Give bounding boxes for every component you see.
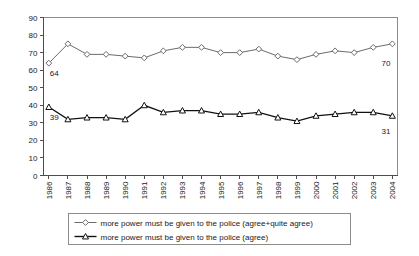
chart-axes — [44, 18, 398, 176]
data-point-marker — [160, 48, 166, 54]
legend-item[interactable]: more power must be given to the police (… — [75, 233, 269, 242]
data-point-marker — [46, 104, 52, 109]
plot-area-border — [44, 18, 398, 176]
data-point-marker — [180, 44, 186, 50]
y-axis-tick-label: 0 — [33, 172, 38, 181]
x-axis-tick-label: 1989 — [102, 181, 111, 199]
y-axis-tick-label: 40 — [29, 101, 38, 110]
x-axis-tick-label: 1990 — [121, 181, 130, 199]
x-axis-tick-label: 2004 — [388, 181, 397, 199]
x-axis-group: 1986198719881989199019911992199319941995… — [45, 176, 398, 200]
x-axis-tick-label: 1996 — [236, 181, 245, 199]
x-axis-tick-label: 2002 — [350, 181, 359, 199]
x-axis-tick-label: 2003 — [369, 181, 378, 199]
y-axis-tick-label: 80 — [29, 31, 38, 40]
line-chart-svg: 0102030405060708090 19861987198819891990… — [0, 0, 419, 256]
data-point-marker — [256, 46, 262, 52]
data-point-value-label: 64 — [50, 69, 59, 78]
data-point-marker — [84, 51, 90, 57]
y-axis-tick-label: 90 — [29, 14, 38, 23]
data-point-marker — [141, 55, 147, 61]
x-axis-tick-label: 1993 — [178, 181, 187, 199]
y-axis-tick-label: 20 — [29, 136, 38, 145]
data-point-marker — [141, 102, 147, 107]
data-point-value-label: 70 — [381, 59, 390, 68]
data-point-marker — [237, 50, 243, 56]
legend-item-label: more power must be given to the police (… — [101, 219, 314, 228]
y-axis-tick-label: 30 — [29, 119, 38, 128]
x-axis-tick-label: 1986 — [45, 181, 54, 199]
chart-container: 0102030405060708090 19861987198819891990… — [0, 0, 419, 256]
x-axis-tick-label: 2001 — [331, 181, 340, 199]
y-axis-tick-label: 60 — [29, 66, 38, 75]
x-axis-tick-label: 1995 — [217, 181, 226, 199]
x-axis-tick-label: 1998 — [274, 181, 283, 199]
data-point-value-label: 31 — [381, 127, 390, 136]
y-axis-tick-label: 70 — [29, 49, 38, 58]
x-axis-tick-label: 1994 — [198, 181, 207, 199]
data-series-group — [46, 41, 396, 124]
data-point-marker — [332, 48, 338, 54]
x-axis-tick-label: 1999 — [293, 181, 302, 199]
data-point-marker — [389, 41, 395, 47]
x-axis-tick-label: 1987 — [64, 181, 73, 199]
x-axis-tick-label: 2000 — [312, 181, 321, 199]
x-axis-tick-label: 1991 — [140, 181, 149, 199]
y-axis-tick-label: 50 — [29, 84, 38, 93]
data-point-marker — [313, 51, 319, 57]
y-axis-group: 0102030405060708090 — [29, 14, 44, 181]
data-point-marker — [103, 51, 109, 57]
data-point-value-label: 39 — [50, 113, 59, 122]
x-axis-tick-label: 1992 — [159, 181, 168, 199]
data-annotations-group: 64397031 — [50, 59, 391, 136]
data-point-marker — [351, 50, 357, 56]
legend-item[interactable]: more power must be given to the police (… — [75, 219, 314, 228]
data-point-marker — [370, 44, 376, 50]
series-agree — [46, 102, 396, 123]
data-point-marker — [294, 57, 300, 63]
data-point-marker — [218, 50, 224, 56]
y-axis-tick-label: 10 — [29, 154, 38, 163]
legend-group: more power must be given to the police (… — [69, 214, 351, 245]
data-point-marker — [122, 53, 128, 59]
x-axis-tick-label: 1997 — [255, 181, 264, 199]
data-point-marker — [199, 44, 205, 50]
data-point-marker — [275, 53, 281, 59]
legend-item-label: more power must be given to the police (… — [101, 233, 269, 242]
plot-frame — [44, 18, 398, 176]
series-agree-plus-quite-agree — [46, 41, 395, 66]
x-axis-tick-label: 1988 — [83, 181, 92, 199]
